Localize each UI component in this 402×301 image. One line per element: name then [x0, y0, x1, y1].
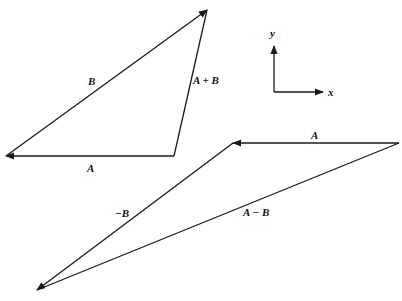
x-axis-label: x [327, 86, 334, 98]
label-a: A [86, 162, 94, 174]
difference-triangle: A −B A − B [37, 129, 399, 290]
label-a-plus-b: A + B [192, 74, 219, 86]
axes: y x [268, 27, 334, 98]
y-axis-label: y [268, 27, 275, 39]
sum-triangle: A B A + B [6, 10, 219, 174]
vector-b-arrow [6, 10, 207, 156]
label-a-minus-b: A − B [242, 206, 269, 218]
label-a2: A [310, 129, 318, 141]
label-neg-b: −B [115, 207, 129, 219]
label-b: B [87, 75, 95, 87]
vector-diagram: A B A + B y x A −B A − B [0, 0, 402, 301]
vector-neg-b-arrow [37, 143, 233, 290]
